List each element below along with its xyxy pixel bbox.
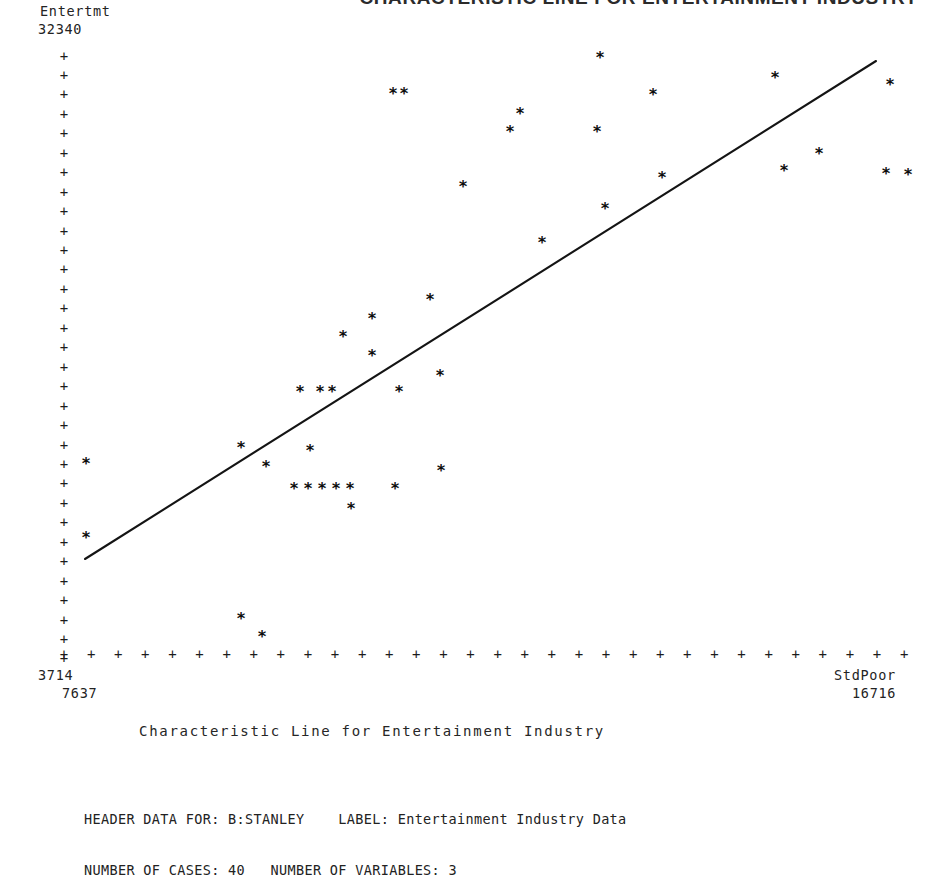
x-axis-tick xyxy=(302,649,313,660)
y-axis-tick xyxy=(59,187,70,198)
y-axis-tick xyxy=(59,167,70,178)
scatter-point xyxy=(331,483,342,494)
y-axis-tick xyxy=(59,478,70,489)
scatter-point xyxy=(261,461,272,472)
x-axis-tick xyxy=(601,649,612,660)
scatter-point xyxy=(338,331,349,342)
regression-line xyxy=(0,0,952,700)
x-axis-tick xyxy=(357,649,368,660)
x-axis-tick xyxy=(194,649,205,660)
y-axis-tick xyxy=(59,459,70,470)
x-axis-tick xyxy=(519,649,530,660)
y-axis-tick xyxy=(59,556,70,567)
y-axis-max-value: 32340 xyxy=(38,22,82,37)
scatter-point xyxy=(236,613,247,624)
x-axis-tick xyxy=(59,649,70,660)
y-axis-tick xyxy=(59,206,70,217)
y-axis-tick xyxy=(59,401,70,412)
y-axis-tick xyxy=(59,128,70,139)
scatter-point xyxy=(390,483,401,494)
scatter-point xyxy=(367,313,378,324)
y-axis-tick xyxy=(59,362,70,373)
x-axis-tick xyxy=(736,649,747,660)
y-axis-tick xyxy=(59,420,70,431)
y-axis-tick xyxy=(59,284,70,295)
y-axis-tick xyxy=(59,245,70,256)
y-axis-tick xyxy=(59,576,70,587)
scatter-point xyxy=(345,483,356,494)
x-axis-tick xyxy=(248,649,259,660)
scatter-point xyxy=(515,108,526,119)
y-axis-tick xyxy=(59,615,70,626)
x-axis-tick xyxy=(465,649,476,660)
scatter-point xyxy=(81,458,92,469)
y-axis-tick xyxy=(59,226,70,237)
x-axis-tick xyxy=(140,649,151,660)
scatter-point xyxy=(595,52,606,63)
x-axis-tick xyxy=(275,649,286,660)
scatter-point xyxy=(399,88,410,99)
scatter-point xyxy=(81,532,92,543)
y-axis-tick xyxy=(59,537,70,548)
report-text-block: HEADER DATA FOR: B:STANLEY LABEL: Entert… xyxy=(84,777,627,888)
scatter-point xyxy=(315,386,326,397)
x-axis-tick xyxy=(844,649,855,660)
scatter-point xyxy=(394,386,405,397)
scatter-point xyxy=(327,386,338,397)
x-axis-tick xyxy=(330,649,341,660)
scatter-point xyxy=(436,465,447,476)
scatter-point xyxy=(317,483,328,494)
scatter-point xyxy=(303,483,314,494)
x-axis-tick xyxy=(872,649,883,660)
x-axis-tick xyxy=(899,649,910,660)
y-axis-tick xyxy=(59,89,70,100)
scatter-point xyxy=(537,237,548,248)
y-axis-tick xyxy=(59,323,70,334)
y-axis-tick xyxy=(59,51,70,62)
scatter-point xyxy=(505,126,516,137)
y-axis-tick xyxy=(59,264,70,275)
x-axis-min-value: 7637 xyxy=(62,686,97,701)
x-axis-tick xyxy=(573,649,584,660)
y-axis-tick xyxy=(59,303,70,314)
report-line-counts: NUMBER OF CASES: 40 NUMBER OF VARIABLES:… xyxy=(84,862,627,879)
scatter-point xyxy=(592,126,603,137)
scatter-point xyxy=(435,370,446,381)
x-axis-tick xyxy=(113,649,124,660)
plot-caption: Characteristic Line for Entertainment In… xyxy=(139,723,605,739)
report-line-header: HEADER DATA FOR: B:STANLEY LABEL: Entert… xyxy=(84,811,627,828)
scatter-point xyxy=(779,165,790,176)
scatterplot: Entertmt 32340 3714 7637 StdPoor 16716 xyxy=(0,0,952,700)
x-axis-tick xyxy=(411,649,422,660)
x-axis-tick xyxy=(709,649,720,660)
x-axis-tick xyxy=(655,649,666,660)
scatter-point xyxy=(648,89,659,100)
scatter-point xyxy=(600,203,611,214)
y-axis-tick xyxy=(59,517,70,528)
scatter-point xyxy=(657,172,668,183)
x-axis-tick xyxy=(763,649,774,660)
x-axis-label: StdPoor xyxy=(834,668,896,683)
y-axis-label: Entertmt xyxy=(40,4,111,19)
scatter-point xyxy=(425,294,436,305)
y-axis-tick xyxy=(59,595,70,606)
y-axis-tick xyxy=(59,498,70,509)
scatter-point xyxy=(885,79,896,90)
x-axis-tick xyxy=(86,649,97,660)
x-axis-tick xyxy=(682,649,693,660)
scatter-point xyxy=(458,181,469,192)
x-axis-tick xyxy=(384,649,395,660)
scatter-point xyxy=(305,445,316,456)
scatter-point xyxy=(346,503,357,514)
scatter-point xyxy=(367,350,378,361)
scatter-point xyxy=(881,168,892,179)
y-axis-tick xyxy=(59,634,70,645)
scatter-point xyxy=(388,88,399,99)
scatter-point xyxy=(236,442,247,453)
x-axis-tick xyxy=(628,649,639,660)
x-axis-tick xyxy=(817,649,828,660)
y-axis-tick xyxy=(59,109,70,120)
x-axis-tick xyxy=(167,649,178,660)
x-axis-tick xyxy=(221,649,232,660)
x-axis-tick xyxy=(790,649,801,660)
